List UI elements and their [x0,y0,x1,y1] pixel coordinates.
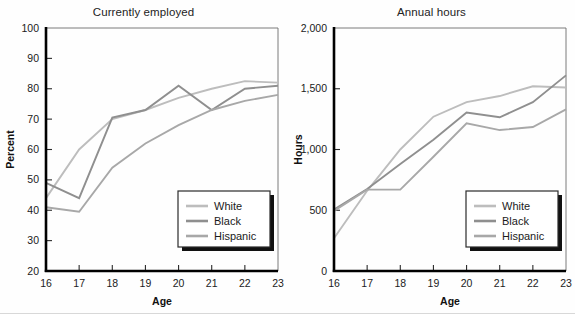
x-tick-label: 21 [206,277,218,289]
x-tick-label: 22 [527,277,539,289]
y-axis-title: Hours [292,134,304,164]
x-axis-title: Age [152,295,172,307]
chart-panel-currently-employed: Currently employed 203040506070809010016… [0,0,287,314]
x-tick-label: 17 [361,277,373,289]
y-tick-label: 1,000 [301,143,327,155]
y-tick-label: 100 [21,22,39,34]
x-tick-label: 22 [239,277,251,289]
chart-panel-annual-hours: Annual hours 05001,0001,5002,00016171819… [288,0,575,314]
x-tick-label: 21 [494,277,506,289]
x-tick-label: 20 [173,277,185,289]
y-axis-title: Percent [4,130,16,169]
x-tick-label: 18 [394,277,406,289]
series-line-black [46,86,278,198]
x-tick-label: 23 [272,277,284,289]
legend-label-white: White [214,200,242,212]
x-tick-label: 16 [40,277,52,289]
y-tick-label: 90 [27,52,39,64]
legend-label-hispanic: Hispanic [502,230,545,242]
line-chart-currently-employed: 20304050607080901001617181920212223AgePe… [0,0,287,314]
legend-label-hispanic: Hispanic [214,230,257,242]
x-tick-label: 23 [560,277,572,289]
y-tick-label: 0 [321,265,327,277]
legend-label-white: White [502,200,530,212]
x-tick-label: 16 [328,277,340,289]
y-tick-label: 40 [27,204,39,216]
y-tick-label: 60 [27,143,39,155]
legend-label-black: Black [502,215,529,227]
x-tick-label: 19 [428,277,440,289]
x-axis-title: Age [440,295,460,307]
x-tick-label: 20 [461,277,473,289]
line-chart-annual-hours: 05001,0001,5002,0001617181920212223AgeHo… [288,0,575,314]
x-tick-label: 19 [140,277,152,289]
y-tick-label: 30 [27,234,39,246]
y-tick-label: 500 [309,204,327,216]
figure-container: Currently employed 203040506070809010016… [0,0,575,314]
x-tick-label: 18 [106,277,118,289]
y-tick-label: 20 [27,265,39,277]
y-tick-label: 2,000 [301,22,327,34]
y-tick-label: 50 [27,173,39,185]
x-tick-label: 17 [73,277,85,289]
y-tick-label: 1,500 [301,82,327,94]
y-tick-label: 80 [27,82,39,94]
legend-label-black: Black [214,215,241,227]
y-tick-label: 70 [27,113,39,125]
